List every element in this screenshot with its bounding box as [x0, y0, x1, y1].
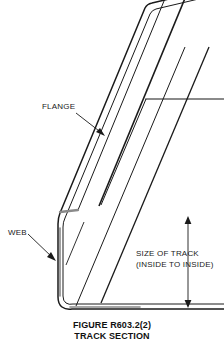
figure-caption-line2: TRACK SECTION	[0, 331, 224, 342]
web-leader	[28, 234, 56, 261]
label-size-of-track: SIZE OF TRACK (INSIDE TO INSIDE)	[136, 249, 214, 270]
label-size-of-track-line2: (INSIDE TO INSIDE)	[136, 260, 214, 271]
figure-caption: FIGURE R603.2(2) TRACK SECTION	[0, 320, 224, 342]
label-web: WEB	[8, 228, 27, 238]
label-size-of-track-line1: SIZE OF TRACK	[136, 249, 214, 260]
label-flange: FLANGE	[42, 102, 75, 112]
figure-caption-line1: FIGURE R603.2(2)	[0, 320, 224, 331]
figure-track-section: FLANGE WEB SIZE OF TRACK (INSIDE TO INSI…	[0, 0, 224, 343]
track-section-drawing	[0, 0, 224, 343]
